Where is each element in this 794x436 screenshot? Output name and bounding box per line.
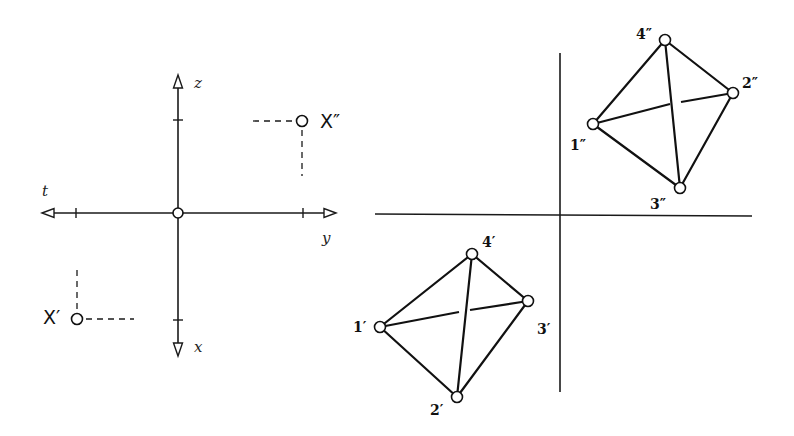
vertex-2pp: [728, 88, 739, 99]
edge-1pp-2pp-part2: [681, 93, 733, 102]
label-x-double-prime: X″: [320, 110, 340, 132]
vertex-2p: [452, 392, 463, 403]
vertex-4pp: [660, 35, 671, 46]
edge-2pp-3pp: [680, 93, 733, 188]
origin-point: [173, 208, 183, 218]
edge-1p-3p-part1: [380, 312, 459, 327]
x-prime-point: [72, 314, 83, 325]
x-arrow-icon: [174, 343, 183, 356]
edge-2p-1p: [380, 327, 457, 397]
vertex-1pp: [588, 119, 599, 130]
edge-4pp-2pp: [665, 40, 733, 93]
axis-label-x: x: [194, 338, 203, 356]
y-arrow-icon: [324, 209, 336, 218]
label-2p: 2′: [430, 402, 444, 418]
left-axes: t y z x X″ X′: [42, 74, 340, 356]
edge-4p-2p: [457, 254, 472, 397]
axis-label-y: y: [321, 229, 331, 247]
vertex-3p: [523, 296, 534, 307]
vertex-4p: [467, 249, 478, 260]
label-1pp: 1″: [570, 137, 586, 153]
edge-1pp-2pp-part1: [593, 104, 670, 124]
label-3pp: 3″: [650, 196, 666, 212]
label-2pp: 2″: [742, 75, 758, 91]
edge-1pp-4pp: [593, 40, 665, 124]
label-4p: 4′: [482, 234, 496, 250]
right-axes: [375, 53, 752, 392]
label-4pp: 4″: [636, 26, 652, 42]
label-3p: 3′: [537, 321, 551, 337]
z-arrow-icon: [174, 75, 183, 88]
edge-1p-3p-part2: [470, 301, 528, 310]
descriptive-geometry-diagram: t y z x X″ X′ 1′ 2′ 3′ 4′: [0, 0, 794, 436]
tetrahedron-top-view: 1″ 2″ 3″ 4″: [570, 26, 758, 212]
edge-3pp-1pp: [593, 124, 680, 188]
vertex-3pp: [675, 183, 686, 194]
t-arrow-icon: [42, 209, 54, 218]
ground-line: [375, 214, 752, 216]
tetrahedron-front-view: 1′ 2′ 3′ 4′: [353, 234, 551, 418]
label-1p: 1′: [353, 319, 367, 335]
edge-4pp-3pp: [665, 40, 680, 188]
label-x-prime: X′: [43, 306, 60, 328]
axis-label-t: t: [42, 182, 49, 200]
edge-1p-4p: [380, 254, 472, 327]
vertex-1p: [375, 322, 386, 333]
edge-3p-2p: [457, 301, 528, 397]
edge-4p-3p: [472, 254, 528, 301]
x-double-prime-point: [297, 116, 308, 127]
axis-label-z: z: [193, 74, 202, 92]
